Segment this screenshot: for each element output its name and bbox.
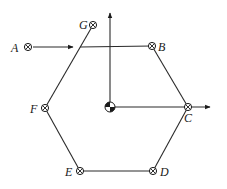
point-marker-e-icon xyxy=(76,167,83,174)
center-of-mass-icon xyxy=(105,102,115,112)
hexagon-diagram: AGBCDEF xyxy=(0,0,227,189)
point-marker-g-icon xyxy=(89,21,96,28)
point-marker-a-icon xyxy=(24,43,31,50)
edge-G-F xyxy=(45,25,93,108)
point-label-f: F xyxy=(29,102,38,116)
point-marker-b-icon xyxy=(148,42,155,49)
point-label-d: D xyxy=(159,165,169,179)
point-label-b: B xyxy=(158,40,166,54)
edge-C-D xyxy=(153,107,188,171)
edge-top-B xyxy=(80,46,152,47)
edge-B-C xyxy=(152,46,188,107)
point-marker-d-icon xyxy=(149,167,156,174)
point-marker-c-icon xyxy=(184,103,191,110)
point-marker-f-icon xyxy=(41,104,48,111)
point-label-e: E xyxy=(64,165,73,179)
edge-E-F xyxy=(45,108,80,171)
point-label-c: C xyxy=(184,111,193,125)
point-label-g: G xyxy=(79,18,88,32)
point-label-a: A xyxy=(10,41,19,55)
